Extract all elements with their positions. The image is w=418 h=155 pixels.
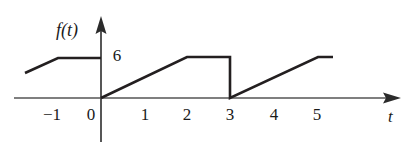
x-tick-label-minus1: −1	[43, 106, 61, 123]
x-tick-label-2: 2	[183, 106, 192, 123]
segment-sawtooth-body	[101, 57, 333, 98]
signal-curve	[25, 57, 333, 98]
segment-left-ramp-and-plateau	[25, 58, 101, 73]
x-axis-name-label: t	[388, 108, 393, 125]
level-value-label: 6	[113, 47, 122, 64]
x-tick-label-0: 0	[87, 106, 96, 123]
x-tick-label-3: 3	[226, 106, 235, 123]
x-tick-label-1: 1	[141, 106, 150, 123]
y-axis	[96, 16, 107, 142]
x-axis	[14, 93, 401, 104]
x-tick-label-5: 5	[313, 106, 322, 123]
x-tick-label-4: 4	[270, 106, 279, 123]
function-label: f(t)	[56, 21, 78, 39]
function-plot-figure: f(t) 6 t −1 0 1 2 3 4 5	[0, 0, 418, 155]
